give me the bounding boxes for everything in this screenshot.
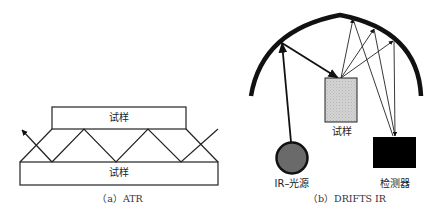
atr-beam-path: [52, 129, 218, 162]
detector-label: 检测器: [380, 178, 410, 190]
ir-source-label: IR–光源: [275, 178, 310, 190]
caption-b: （b）DRIFTS IR: [308, 193, 386, 205]
source-beam: [282, 43, 291, 142]
atr-beam-exit: [22, 130, 52, 162]
caption-a: （a）ATR: [97, 193, 143, 205]
diagram-canvas: [0, 0, 434, 217]
collect-ray-2: [374, 29, 395, 136]
atr-top-sample-label: 试样: [109, 112, 129, 124]
mirror-to-sample-beam: [282, 43, 338, 78]
collect-ray-3: [394, 41, 395, 136]
drifts-panel: [251, 15, 421, 174]
ir-source: [277, 143, 308, 174]
drifts-sample-label: 试样: [332, 126, 352, 138]
drifts-sample: [325, 78, 357, 122]
atr-crystal-label: 试样: [109, 167, 129, 179]
collect-ray-1: [353, 19, 393, 136]
detector: [373, 137, 416, 168]
